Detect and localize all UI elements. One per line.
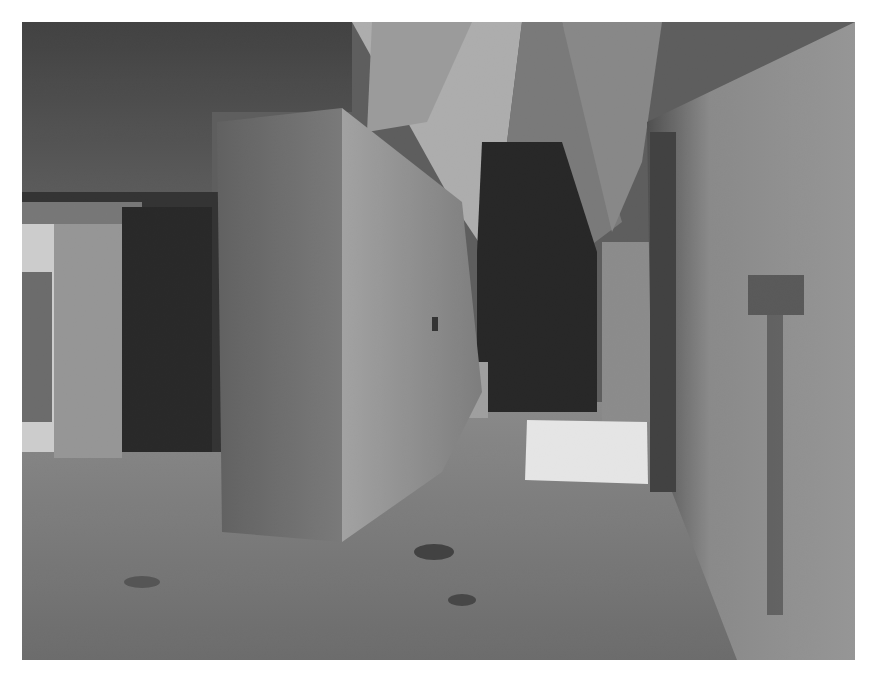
film-grain (22, 22, 855, 660)
photograph: Stone corridor with corbel-vaulted ceili… (22, 22, 855, 660)
corridor-scene (22, 22, 855, 660)
